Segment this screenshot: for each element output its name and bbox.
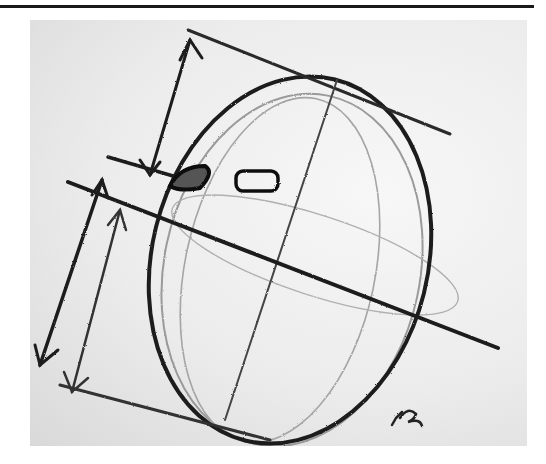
head-construction-sketch [30,20,527,446]
top-rule [0,5,534,8]
sketch-photo [30,20,527,446]
